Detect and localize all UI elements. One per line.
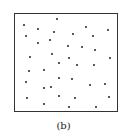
figure-caption: (b) bbox=[0, 120, 127, 131]
scatter-dot bbox=[25, 35, 27, 37]
scatter-dot bbox=[95, 106, 97, 108]
scatter-dot bbox=[104, 83, 106, 85]
scatter-dot bbox=[26, 97, 28, 99]
scatter-dot bbox=[58, 62, 60, 64]
scatter-dot bbox=[68, 106, 70, 108]
scatter-dot bbox=[89, 84, 91, 86]
scatter-dot bbox=[58, 95, 60, 97]
scatter-frame bbox=[14, 13, 118, 112]
scatter-dot bbox=[108, 96, 110, 98]
scatter-dot bbox=[109, 57, 111, 59]
scatter-dot bbox=[74, 97, 76, 99]
scatter-dot bbox=[29, 56, 31, 58]
scatter-dot bbox=[72, 33, 74, 35]
scatter-dot bbox=[67, 45, 69, 47]
scatter-dot bbox=[23, 24, 25, 26]
scatter-dot bbox=[93, 64, 95, 66]
scatter-dot bbox=[85, 26, 87, 28]
scatter-dot bbox=[43, 87, 45, 89]
scatter-dot bbox=[92, 35, 94, 37]
scatter-dot bbox=[76, 64, 78, 66]
scatter-dot bbox=[107, 29, 109, 31]
scatter-dot bbox=[37, 42, 39, 44]
scatter-dot bbox=[37, 28, 39, 30]
scatter-dot bbox=[56, 18, 58, 20]
scatter-dot bbox=[58, 77, 60, 79]
scatter-dot bbox=[28, 70, 30, 72]
scatter-dot bbox=[51, 53, 53, 55]
scatter-dot bbox=[49, 39, 51, 41]
scatter-dot bbox=[50, 86, 52, 88]
scatter-dot bbox=[25, 81, 27, 83]
scatter-dot bbox=[43, 103, 45, 105]
scatter-dot bbox=[43, 69, 45, 71]
scatter-dot bbox=[53, 31, 55, 33]
scatter-dot bbox=[81, 46, 83, 48]
scatter-dot bbox=[68, 57, 70, 59]
scatter-dot bbox=[94, 49, 96, 51]
scatter-dot bbox=[71, 78, 73, 80]
